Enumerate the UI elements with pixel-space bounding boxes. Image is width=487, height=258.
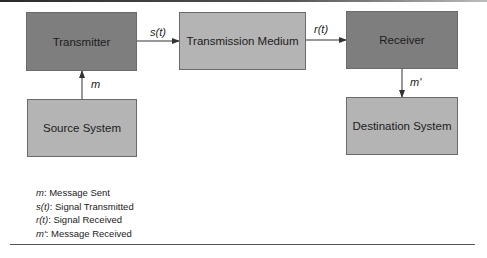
transmission-medium-label: Transmission Medium [186, 35, 298, 47]
transmitter-node: Transmitter [26, 12, 137, 71]
transmission-medium-node: Transmission Medium [179, 12, 306, 70]
edge-label-m: m [91, 78, 100, 90]
legend-text: : Signal Transmitted [50, 201, 134, 212]
legend-item: s(t): Signal Transmitted [36, 200, 134, 214]
destination-system-label: Destination System [352, 120, 451, 132]
legend-symbol: m' [36, 228, 46, 239]
legend: m: Message Sent s(t): Signal Transmitted… [36, 186, 134, 240]
legend-symbol: s(t) [36, 201, 50, 212]
receiver-node: Receiver [346, 11, 458, 69]
legend-text: : Message Received [46, 228, 132, 239]
legend-symbol: r(t) [36, 214, 48, 225]
receiver-label: Receiver [379, 34, 424, 46]
bottom-rule [10, 244, 475, 245]
edge-label-m-prime: m' [410, 76, 421, 88]
legend-item: m': Message Received [36, 227, 134, 241]
legend-text: : Signal Received [48, 214, 122, 225]
source-system-node: Source System [27, 99, 137, 157]
legend-item: r(t): Signal Received [36, 213, 134, 227]
transmitter-label: Transmitter [53, 36, 111, 48]
legend-item: m: Message Sent [36, 186, 134, 200]
source-system-label: Source System [43, 122, 121, 134]
legend-symbol: m [36, 187, 44, 198]
legend-text: : Message Sent [44, 187, 110, 198]
edge-label-r-t: r(t) [314, 23, 328, 35]
edge-label-s-t: s(t) [150, 26, 166, 38]
destination-system-node: Destination System [346, 97, 458, 155]
